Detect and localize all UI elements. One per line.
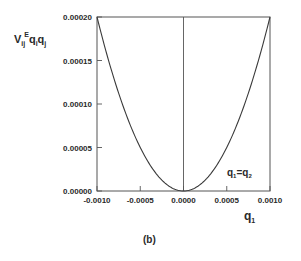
y-axis-label: VijEqiqj <box>14 31 46 48</box>
panel-label: (b) <box>143 234 156 245</box>
x-axis-ticks: -0.0010-0.00050.00000.00050.0010 <box>83 186 282 205</box>
chart-figure: 0.000000.000050.000100.000150.00020 -0.0… <box>0 0 301 261</box>
y-tick-label: 0.00015 <box>63 57 92 66</box>
series-annotation: q1=q2 <box>227 167 252 179</box>
x-tick-label: -0.0005 <box>127 196 155 205</box>
y-tick-label: 0.00010 <box>63 100 92 109</box>
x-tick-label: -0.0010 <box>83 196 111 205</box>
y-tick-label: 0.00000 <box>63 187 92 196</box>
x-tick-label: 0.0000 <box>171 196 196 205</box>
x-axis-label: q1 <box>244 209 255 224</box>
x-tick-label: 0.0005 <box>215 196 240 205</box>
y-axis-ticks: 0.000000.000050.000100.000150.00020 <box>63 13 102 196</box>
y-tick-label: 0.00020 <box>63 13 92 22</box>
y-tick-label: 0.00005 <box>63 144 92 153</box>
x-tick-label: 0.0010 <box>258 196 283 205</box>
